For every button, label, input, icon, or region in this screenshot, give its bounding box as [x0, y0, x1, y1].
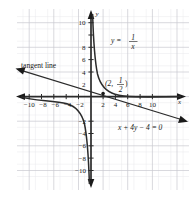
y-tick-label--4: −4 [79, 130, 87, 138]
curve-equation-lhs: y = [110, 36, 121, 45]
point-label-numerator: 1 [119, 76, 123, 85]
curve-equation-numerator: 1 [131, 33, 135, 42]
graph-figure: −10 −8 −6 −4 −2 2 4 6 8 10 10 8 6 4 2 −2… [0, 0, 195, 199]
x-tick-label-10: 10 [149, 101, 157, 109]
y-tick-label--2: −2 [79, 118, 87, 126]
x-tick-label-6: 6 [126, 101, 130, 109]
y-tick-label-10: 10 [79, 19, 87, 27]
x-tick-label--10: −10 [24, 101, 35, 109]
coordinate-plane-svg: −10 −8 −6 −4 −2 2 4 6 8 10 10 8 6 4 2 −2… [0, 0, 195, 199]
y-tick-label--10: −10 [75, 167, 86, 175]
x-tick-label-2: 2 [101, 101, 105, 109]
point-label-open: (2, [105, 79, 113, 88]
y-tick-label--8: −8 [79, 155, 87, 163]
x-tick-label--4: −4 [64, 101, 72, 109]
y-tick-label-8: 8 [82, 44, 86, 52]
y-tick-label--6: −6 [79, 142, 87, 150]
point-label-denominator: 2 [119, 85, 123, 94]
curve-equation-denominator: x [130, 42, 135, 51]
x-tick-label--6: −6 [52, 101, 60, 109]
x-tick-label-8: 8 [138, 101, 142, 109]
y-tick-label-2: 2 [82, 81, 86, 89]
x-tick-label--8: −8 [39, 101, 47, 109]
y-tick-label-4: 4 [82, 69, 86, 77]
x-tick-label-4: 4 [114, 101, 118, 109]
x-tick-label--2: −2 [76, 101, 84, 109]
line-equation-label: x + 4y − 4 = 0 [117, 123, 163, 132]
tangent-line-label: tangent line [21, 61, 57, 70]
y-tick-label-6: 6 [82, 56, 86, 64]
tangency-point-dot [101, 92, 105, 96]
